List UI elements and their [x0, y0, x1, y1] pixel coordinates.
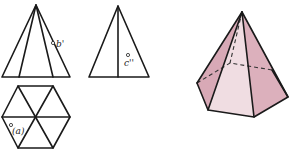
- front-view-edge-left: [19, 5, 36, 77]
- point-b-prime-marker: [51, 41, 54, 44]
- label-a: (a): [12, 126, 25, 136]
- front-view: b': [2, 5, 70, 77]
- side-view-outline: [89, 6, 149, 77]
- top-view: (a): [2, 86, 70, 148]
- projection-diagram: b' c'' (a): [0, 0, 297, 155]
- point-c-double-prime-marker: [126, 53, 129, 56]
- label-b-prime: b': [56, 39, 64, 49]
- label-c-double-prime: c'': [124, 58, 134, 68]
- side-view: c'': [89, 6, 149, 77]
- hexagonal-pyramid-3d: [197, 12, 288, 117]
- front-view-edge-right: [36, 5, 53, 77]
